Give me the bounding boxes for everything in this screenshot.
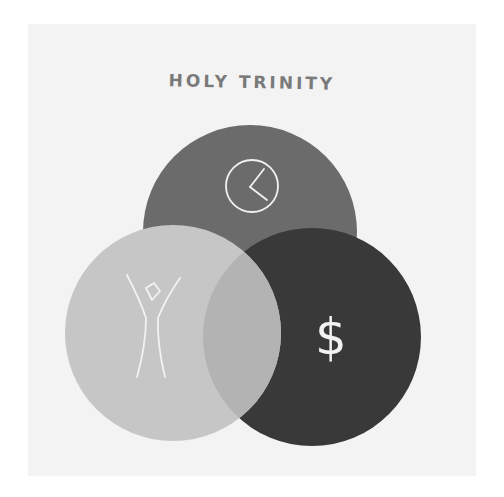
- dollar-icon: $: [306, 302, 356, 372]
- venn-diagram: [0, 0, 504, 497]
